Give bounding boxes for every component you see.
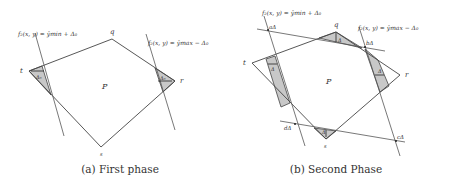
panel-a: t q r s P Δ₀ Δ₀ f₂(x, y) = ŷmin + Δ₀ f₂(… [17, 28, 209, 175]
equation-label-ymin: f₂(x, y) = ŷmin + Δ₀ [17, 30, 78, 38]
vertex-label-q: q [334, 21, 339, 29]
intersection-label-c: cΔ [397, 134, 404, 140]
polygon-p [29, 39, 175, 147]
figure-canvas: t q r s P Δ₀ Δ₀ f₂(x, y) = ŷmin + Δ₀ f₂(… [0, 0, 450, 186]
region-label-top: Δ [337, 37, 342, 43]
point-b [364, 46, 366, 48]
region-label-right: Δ₀ [159, 75, 166, 81]
caption-b: (b) Second Phase [290, 163, 382, 175]
point-d [294, 123, 296, 125]
equation-label-ymax: f₂(x, y) = ŷmax − Δ₀ [147, 39, 209, 47]
vertex-label-r: r [180, 77, 184, 85]
intersection-label-a: aΔ [269, 24, 276, 30]
point-c [395, 140, 397, 142]
shaded-region-right [365, 49, 389, 92]
intersection-label-d: dΔ [284, 125, 292, 131]
vertex-label-r: r [405, 71, 409, 79]
region-label-left: Δ₀ [35, 74, 42, 80]
region-label-left: Δ [270, 66, 275, 72]
equation-label-ymax: f₂(x, y) = ŷmax − Δ₀ [357, 24, 419, 32]
polygon-label-p: P [325, 77, 332, 86]
vertex-label-s: s [100, 151, 103, 157]
polygon-label-p: P [101, 82, 108, 91]
vertex-label-s: s [324, 143, 327, 149]
intersection-label-b: bΔ [366, 40, 374, 46]
region-label-bottom: Δ [321, 129, 326, 135]
caption-a: (a) First phase [81, 163, 159, 175]
equation-label-ymin: f₂(x, y) = ŷmin + Δ₀ [261, 9, 322, 17]
line-ymin [35, 33, 64, 136]
region-label-right: Δ [377, 68, 382, 74]
vertex-label-t: t [20, 67, 23, 75]
vertex-label-q: q [110, 28, 115, 36]
panel-b: t q r s P aΔ bΔ cΔ dΔ Δ Δ Δ Δ f₂(x, y) =… [243, 9, 419, 175]
vertex-label-t: t [243, 59, 246, 67]
